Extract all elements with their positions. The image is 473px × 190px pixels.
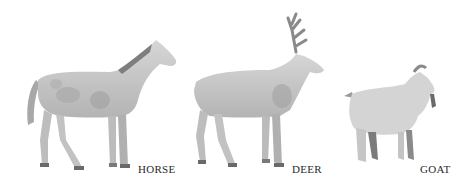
- goat-figure: [344, 66, 436, 162]
- goat-label: GOAT: [420, 163, 451, 175]
- horse-figure: [27, 40, 176, 170]
- horse-label: HORSE: [138, 163, 176, 175]
- deer-label: DEER: [292, 163, 322, 175]
- deer-figure: [194, 14, 324, 167]
- animals-illustration: [0, 0, 473, 190]
